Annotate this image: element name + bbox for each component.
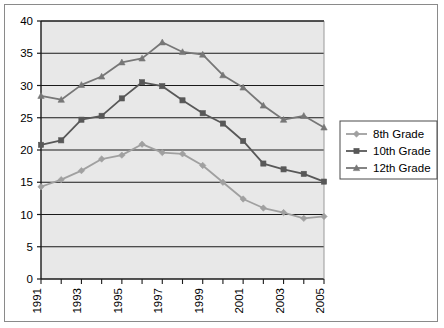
x-axis-tick-label: 1995 [112,288,124,314]
x-axis-tick-label: 2001 [233,288,245,314]
y-axis-tick-label: 0 [27,273,33,285]
y-axis-tick-label: 40 [20,15,33,27]
x-axis-tick-label: 1999 [193,288,205,314]
data-point [281,167,286,172]
x-axis-tick-label: 2005 [314,288,326,314]
data-point [180,98,185,103]
y-axis-tick-label: 5 [27,241,33,253]
x-axis-tick-label: 1997 [152,288,164,314]
data-point [200,111,205,116]
legend-marker-icon [354,148,359,153]
y-axis-labels: 0510152025303540 [20,15,33,285]
data-point [220,121,225,126]
chart-container: 0510152025303540 19911993199519971999200… [0,0,444,328]
y-axis-tick-label: 35 [20,47,33,59]
y-axis-tick-label: 10 [20,209,33,221]
data-point [139,80,144,85]
legend: 8th Grade10th Grade12th Grade [340,121,437,179]
y-axis-tick-label: 30 [20,80,33,92]
x-axis-ticks [41,279,324,284]
x-axis-tick-label: 1991 [31,288,43,314]
data-point [119,96,124,101]
legend-label: 8th Grade [373,128,424,140]
data-point [261,161,266,166]
y-axis-tick-label: 20 [20,144,33,156]
data-point [160,84,165,89]
data-point [79,117,84,122]
x-axis-tick-label: 2003 [274,288,286,314]
x-axis-tick-label: 1993 [71,288,83,314]
data-point [301,171,306,176]
data-point [38,142,43,147]
x-axis-labels: 19911993199519971999200120032005 [31,288,326,314]
data-point [241,138,246,143]
line-chart: 0510152025303540 19911993199519971999200… [0,0,444,328]
legend-label: 10th Grade [373,145,431,157]
y-axis-tick-label: 15 [20,176,33,188]
y-axis-tick-label: 25 [20,112,33,124]
data-point [59,138,64,143]
data-point [99,113,104,118]
data-point [321,179,326,184]
legend-label: 12th Grade [373,162,431,174]
